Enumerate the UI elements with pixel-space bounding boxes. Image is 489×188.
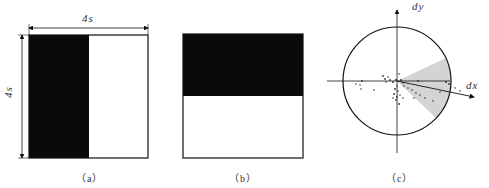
- dimension-top-label: 4s: [82, 12, 94, 24]
- dimension-left-label: 4s: [2, 86, 14, 98]
- black-half-left: [29, 35, 89, 158]
- black-half-top: [183, 34, 303, 96]
- caption-a: （a）: [76, 170, 103, 185]
- panel-a: [18, 24, 148, 158]
- dy-axis-label: dy: [412, 0, 424, 12]
- caption-c: （c）: [386, 170, 413, 185]
- panel-c: [327, 10, 474, 153]
- caption-b: （b）: [229, 170, 257, 185]
- dx-axis-label: dx: [466, 79, 478, 91]
- panel-b: [183, 34, 303, 158]
- figure-canvas: [0, 0, 489, 188]
